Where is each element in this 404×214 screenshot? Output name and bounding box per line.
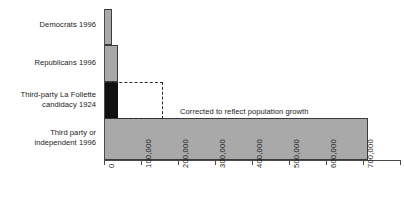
bar-republicans-1996 (104, 45, 118, 82)
x-axis-tick-label-100000: 100,000 (145, 139, 153, 168)
x-axis-tick-300000 (215, 161, 216, 165)
x-axis-tick-label-0: 0 (108, 164, 116, 168)
dashed-correction-box (104, 82, 163, 119)
x-axis-tick-500000 (289, 161, 290, 165)
plot-area: 0 100,000 200,000 300,000 400,000 500,00… (96, 0, 404, 214)
category-label-republicans-1996: Republicans 1996 (0, 58, 96, 68)
x-axis-tick-label-300000: 300,000 (219, 139, 227, 168)
category-label-democrats-1996: Democrats 1996 (0, 20, 96, 30)
x-axis-tick-400000 (252, 161, 253, 165)
bar-democrats-1996 (104, 9, 112, 45)
x-axis-tick-700000 (363, 161, 364, 165)
category-label-la-follette-1924: Third-party La Follette candidacy 1924 (0, 90, 96, 110)
bar-chart: Democrats 1996 Republicans 1996 Third-pa… (0, 0, 404, 214)
x-axis-tick-label-400000: 400,000 (256, 139, 264, 168)
y-axis-spine (104, 9, 105, 160)
x-axis-tick-800000 (400, 161, 401, 165)
annotation-corrected-population-growth: Corrected to reflect population growth (180, 107, 309, 117)
x-axis-tick-label-500000: 500,000 (293, 139, 301, 168)
x-axis-tick-600000 (326, 161, 327, 165)
x-axis-tick-label-600000: 600,000 (330, 139, 338, 168)
x-axis-tick-label-700000: 700,000 (367, 139, 375, 168)
x-axis-tick-200000 (178, 161, 179, 165)
x-axis-tick-label-200000: 200,000 (182, 139, 190, 168)
category-label-third-party-1996: Third party or independent 1996 (0, 128, 96, 148)
x-axis-tick-100000 (141, 161, 142, 165)
x-axis-tick-0 (104, 161, 105, 165)
